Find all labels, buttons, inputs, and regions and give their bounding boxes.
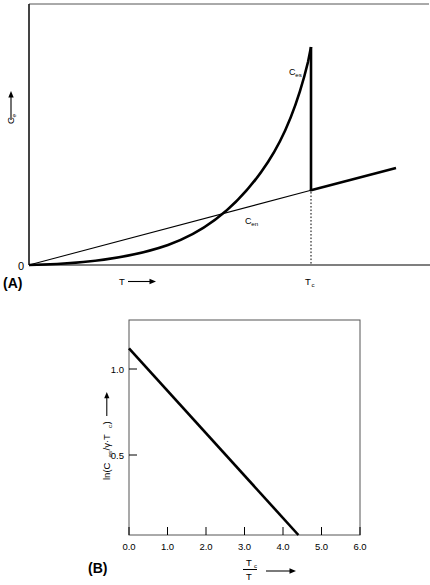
- panel-b-x-axis-numerator-sub: c: [254, 562, 257, 569]
- panel-b-x-tick-labels: 0.0 1.0 2.0 3.0 4.0 5.0 6.0: [122, 541, 366, 552]
- panel-a-tc-label: T c: [305, 276, 315, 288]
- panel-a-normal-line-extrapolated: [29, 190, 311, 265]
- panel-b: 0.0 1.0 2.0 3.0 4.0 5.0 6.0 0.5 1.0 ln(C…: [0, 300, 430, 585]
- panel-b-plot: 0.0 1.0 2.0 3.0 4.0 5.0 6.0 0.5 1.0 ln(C…: [0, 300, 430, 585]
- panel-a: C e 0 T T c C es C: [0, 0, 430, 300]
- panel-a-plot: C e 0 T T c C es C: [0, 0, 430, 300]
- panel-a-normal-line-above-tc: [310, 168, 396, 191]
- panel-b-y-axis-label-prefix: ln(C: [101, 462, 112, 480]
- panel-b-data-line: [129, 348, 298, 535]
- panel-a-ces-annotation: C es: [289, 67, 302, 78]
- panel-a-x-axis-label-text: T: [119, 276, 125, 287]
- panel-a-ces-annotation-sub: es: [295, 71, 302, 78]
- panel-b-x-tick-label-5: 5.0: [315, 541, 328, 552]
- panel-b-x-ticks: [129, 527, 360, 535]
- panel-b-x-axis-label: T c T: [243, 557, 296, 582]
- panel-b-x-tick-label-2: 2.0: [199, 541, 212, 552]
- panel-b-y-axis-label: ln(C es /γ·T c ): [101, 392, 113, 480]
- panel-a-origin-label: 0: [18, 260, 24, 272]
- panel-b-x-tick-label-3: 3.0: [238, 541, 251, 552]
- panel-a-label: (A): [3, 275, 22, 291]
- panel-b-y-tick-labels: 0.5 1.0: [111, 364, 124, 461]
- panel-b-y-axis-label-sub1: es: [106, 451, 113, 458]
- panel-a-tc-label-text: T: [305, 276, 311, 287]
- panel-a-y-axis-label-sub: e: [10, 113, 17, 117]
- panel-a-curve-ces: [29, 47, 311, 265]
- panel-a-frame: [29, 4, 429, 265]
- panel-a-cen-annotation: C en: [245, 216, 259, 227]
- panel-b-x-tick-label-4: 4.0: [276, 541, 289, 552]
- panel-a-y-axis-label: C e: [5, 113, 17, 124]
- panel-b-frame: [129, 320, 360, 535]
- panel-a-cen-annotation-sub: en: [251, 220, 258, 227]
- panel-b-x-tick-label-0: 0.0: [122, 541, 135, 552]
- panel-b-label: (B): [88, 560, 107, 576]
- panel-a-x-axis-label: T: [119, 276, 156, 287]
- panel-b-y-tick-label-1: 1.0: [111, 364, 124, 375]
- panel-b-y-axis-label-mid: /γ·T: [101, 434, 112, 451]
- panel-b-x-tick-label-6: 6.0: [353, 541, 366, 552]
- figure-root: C e 0 T T c C es C: [0, 0, 430, 585]
- panel-b-x-axis-numerator: T: [246, 557, 252, 568]
- panel-b-x-tick-label-1: 1.0: [161, 541, 174, 552]
- panel-b-y-axis-label-suffix: ): [101, 421, 112, 424]
- panel-b-y-ticks: [129, 369, 137, 455]
- panel-b-x-axis-denominator: T: [246, 571, 252, 582]
- panel-a-tc-label-sub: c: [312, 281, 315, 288]
